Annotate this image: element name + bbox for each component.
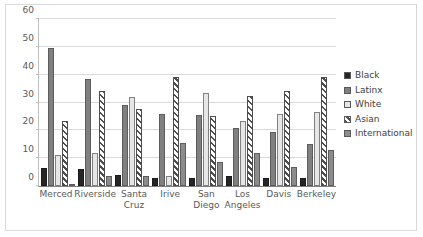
chart-legend: BlackLatinxWhiteAsianInternational: [344, 71, 412, 138]
legend-item: Black: [344, 71, 412, 80]
x-axis-label: Merced: [38, 189, 74, 211]
bar: [55, 155, 61, 186]
bar: [217, 162, 223, 186]
bar: [277, 114, 283, 186]
bar: [270, 132, 276, 186]
x-axis-label: Riverside: [74, 189, 116, 211]
bar: [291, 167, 297, 186]
bar: [78, 169, 84, 186]
bar-group: [39, 19, 76, 186]
y-axis-tick-label: 50: [23, 33, 34, 42]
bar: [152, 178, 158, 186]
x-axis-label: San Diego: [188, 189, 224, 211]
bar: [240, 121, 246, 186]
bar: [166, 176, 172, 186]
bar: [254, 153, 260, 186]
bar: [189, 178, 195, 186]
bar: [180, 143, 186, 186]
bar-group: [150, 19, 187, 186]
bar: [85, 79, 91, 186]
bar: [203, 93, 209, 186]
legend-swatch-icon: [344, 116, 351, 123]
y-axis-tick-label: 10: [23, 145, 34, 154]
plot-area: 0102030405060: [38, 19, 336, 187]
bar-group: [76, 19, 113, 186]
bar-group: [299, 19, 336, 186]
legend-swatch-icon: [344, 101, 351, 108]
legend-item: Latinx: [344, 86, 412, 95]
x-axis-labels: MercedRiversideSanta CruzIriveSan DiegoL…: [38, 189, 336, 211]
x-axis-label: Irive: [152, 189, 188, 211]
legend-label: Black: [355, 71, 379, 80]
x-axis-label: Santa Cruz: [116, 189, 152, 211]
bar: [307, 144, 313, 186]
y-axis-tick-label: 0: [28, 173, 34, 182]
bar: [196, 115, 202, 186]
bar: [226, 176, 232, 186]
bar: [210, 116, 216, 186]
bar-group: [262, 19, 299, 186]
bar: [143, 176, 149, 186]
bar: [328, 150, 334, 186]
legend-label: Asian: [355, 115, 380, 124]
bar: [48, 48, 54, 186]
x-axis-label: Berkeley: [297, 189, 336, 211]
bar: [321, 77, 327, 186]
legend-label: White: [355, 100, 381, 109]
bar: [106, 176, 112, 186]
x-axis-label: Los Angeles: [224, 189, 260, 211]
x-axis-label: Davis: [261, 189, 297, 211]
bar: [263, 178, 269, 186]
bar: [247, 96, 253, 186]
bar: [92, 153, 98, 186]
bar: [159, 114, 165, 186]
bar: [173, 77, 179, 186]
chart-frame: 0102030405060 MercedRiversideSanta CruzI…: [5, 4, 417, 231]
legend-item: International: [344, 129, 412, 138]
bar: [69, 184, 75, 186]
bar: [115, 175, 121, 186]
legend-item: White: [344, 100, 412, 109]
bar: [41, 168, 47, 186]
bar: [136, 109, 142, 186]
bar: [99, 91, 105, 186]
legend-swatch-icon: [344, 130, 351, 137]
bar: [233, 128, 239, 186]
bar: [62, 121, 68, 186]
legend-swatch-icon: [344, 87, 351, 94]
bar-group: [188, 19, 225, 186]
legend-label: International: [355, 129, 412, 138]
bar-group: [225, 19, 262, 186]
bar: [129, 97, 135, 186]
bar-group: [113, 19, 150, 186]
y-axis-tick-label: 40: [23, 61, 34, 70]
legend-item: Asian: [344, 115, 412, 124]
y-axis-tick-label: 20: [23, 117, 34, 126]
bar: [314, 112, 320, 186]
chart-screenshot: 0102030405060 MercedRiversideSanta CruzI…: [0, 0, 423, 237]
legend-label: Latinx: [355, 86, 383, 95]
bar: [284, 91, 290, 186]
y-axis-tick-label: 60: [23, 6, 34, 15]
y-axis-tick-label: 30: [23, 89, 34, 98]
legend-swatch-icon: [344, 72, 351, 79]
bar-groups: [39, 19, 336, 186]
bar: [300, 178, 306, 186]
bar: [122, 105, 128, 186]
